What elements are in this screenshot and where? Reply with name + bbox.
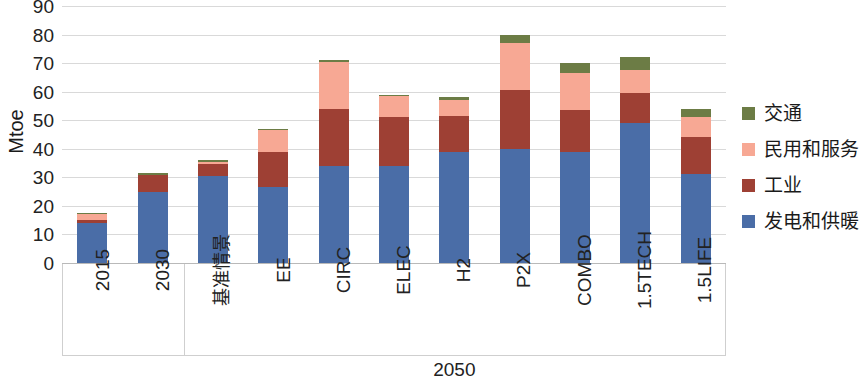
- category-cell: 2015: [63, 264, 123, 355]
- y-tick-label: 40: [33, 140, 54, 159]
- category-cell: EE: [244, 264, 304, 355]
- x-tick-label: P2X: [514, 252, 533, 288]
- bar-segment[interactable]: [500, 149, 530, 263]
- y-tick-label: 0: [43, 254, 54, 273]
- bar-slot: [364, 6, 424, 263]
- bar-slot: [605, 6, 665, 263]
- category-cell: COMBO: [545, 264, 605, 355]
- bar-segment[interactable]: [681, 137, 711, 174]
- bar-slot: [424, 6, 484, 263]
- bar-segment[interactable]: [560, 73, 590, 110]
- category-cell: ELEC: [364, 264, 424, 355]
- bar-segment[interactable]: [439, 152, 469, 263]
- bar-segment[interactable]: [258, 187, 288, 263]
- bar-segment[interactable]: [500, 90, 530, 149]
- bar-slot: [666, 6, 726, 263]
- legend-item[interactable]: 工业: [742, 167, 864, 203]
- bar-segment[interactable]: [681, 117, 711, 137]
- bar-segment[interactable]: [620, 70, 650, 93]
- y-tick-label: 20: [33, 197, 54, 216]
- x-tick-label: EE: [274, 257, 293, 282]
- bar-segment[interactable]: [138, 175, 168, 192]
- stacked-bar[interactable]: [258, 129, 288, 263]
- category-cell: P2X: [484, 264, 544, 355]
- bar-slot: [545, 6, 605, 263]
- legend-color-swatch: [742, 143, 755, 156]
- stacked-bar[interactable]: [319, 60, 349, 263]
- x-tick-label: COMBO: [575, 234, 594, 306]
- bar-segment[interactable]: [198, 164, 228, 175]
- y-tick-label: 90: [33, 0, 54, 16]
- category-cell: 基准情景: [183, 264, 243, 355]
- bar-segment[interactable]: [560, 63, 590, 73]
- x-tick-label: 1.5LIFE: [695, 237, 714, 304]
- legend-item[interactable]: 民用和服务: [742, 131, 864, 167]
- bar-segment[interactable]: [379, 117, 409, 166]
- legend-label: 工业: [764, 176, 802, 195]
- category-cell: H2: [424, 264, 484, 355]
- bar-slot: [122, 6, 182, 263]
- bar-slot: [303, 6, 363, 263]
- x-tick-label: CIRC: [334, 247, 353, 293]
- legend-color-swatch: [742, 179, 755, 192]
- bar-slot: [183, 6, 243, 263]
- bar-segment[interactable]: [379, 96, 409, 117]
- stacked-bar-chart: Mtoe 0102030405060708090 20152030基准情景EEC…: [0, 0, 864, 388]
- bar-segment[interactable]: [500, 35, 530, 44]
- bar-segment[interactable]: [319, 62, 349, 109]
- y-tick-label: 80: [33, 26, 54, 45]
- stacked-bar[interactable]: [379, 95, 409, 263]
- bar-segment[interactable]: [620, 57, 650, 70]
- x-axis-group-label: 2050: [183, 360, 726, 379]
- category-cell: 1.5TECH: [605, 264, 665, 355]
- x-tick-label: 2015: [93, 249, 112, 291]
- bar-segment[interactable]: [681, 109, 711, 118]
- category-cells: 20152030基准情景EECIRCELECH2P2XCOMBO1.5TECH1…: [63, 264, 725, 355]
- legend-label: 交通: [764, 104, 802, 123]
- y-tick-label: 60: [33, 83, 54, 102]
- bar-segment[interactable]: [500, 43, 530, 90]
- x-tick-label: 1.5TECH: [635, 231, 654, 309]
- bar-segment[interactable]: [319, 109, 349, 166]
- y-tick-label: 70: [33, 54, 54, 73]
- legend-label: 民用和服务: [764, 140, 859, 159]
- group-divider: [184, 264, 185, 355]
- y-tick-label: 50: [33, 111, 54, 130]
- legend-item[interactable]: 交通: [742, 95, 864, 131]
- stacked-bar[interactable]: [500, 35, 530, 263]
- bar-segment[interactable]: [560, 110, 590, 151]
- bar-segment[interactable]: [620, 93, 650, 123]
- legend-color-swatch: [742, 215, 755, 228]
- x-tick-label: 2030: [153, 249, 172, 291]
- x-tick-label: H2: [454, 258, 473, 282]
- plot-area: [62, 6, 726, 264]
- bar-segment[interactable]: [258, 152, 288, 188]
- bar-segment[interactable]: [439, 100, 469, 116]
- x-tick-label: 基准情景: [213, 234, 232, 306]
- y-tick-label: 30: [33, 168, 54, 187]
- bar-segment[interactable]: [439, 116, 469, 152]
- bar-slot: [243, 6, 303, 263]
- legend-item[interactable]: 发电和供暖: [742, 203, 864, 239]
- legend-color-swatch: [742, 107, 755, 120]
- legend: 交通民用和服务工业发电和供暖: [742, 95, 864, 239]
- bar-segment[interactable]: [258, 130, 288, 151]
- category-cell: 2030: [123, 264, 183, 355]
- legend-label: 发电和供暖: [764, 212, 859, 231]
- category-label-band: 20152030基准情景EECIRCELECH2P2XCOMBO1.5TECH1…: [62, 264, 726, 356]
- bar-slot: [62, 6, 122, 263]
- x-axis-group-labels: 2050: [62, 356, 726, 386]
- bar-slot: [485, 6, 545, 263]
- x-tick-label: ELEC: [394, 245, 413, 295]
- bar-group-container: [62, 6, 726, 263]
- category-cell: 1.5LIFE: [665, 264, 725, 355]
- stacked-bar[interactable]: [439, 97, 469, 263]
- category-cell: CIRC: [304, 264, 364, 355]
- y-axis-tick-labels: 0102030405060708090: [0, 0, 62, 275]
- stacked-bar[interactable]: [560, 63, 590, 263]
- y-tick-label: 10: [33, 225, 54, 244]
